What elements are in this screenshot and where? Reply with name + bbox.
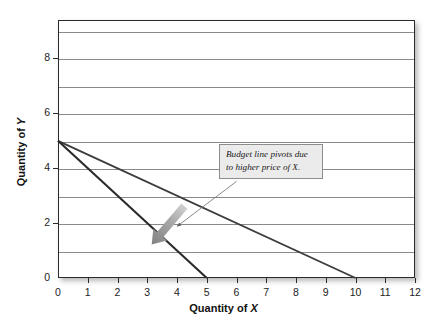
x-tick-label-5: 5 [195,286,219,298]
x-tick-label-9: 9 [314,286,338,298]
y-tick-mark-4 [53,168,58,169]
x-tick-label-3: 3 [135,286,159,298]
gridline-y-6 [59,114,414,115]
x-tick-mark-10 [356,278,357,283]
y-tick-label-8: 8 [22,51,50,63]
y-tick-mark-2 [53,223,58,224]
x-axis-title-variable: X [250,302,257,314]
x-tick-label-1: 1 [76,286,100,298]
gridline-y-2 [59,224,414,225]
x-tick-mark-6 [237,278,238,283]
gridline-y-8 [59,59,414,60]
x-tick-label-8: 8 [284,286,308,298]
x-tick-mark-4 [177,278,178,283]
x-tick-label-12: 12 [403,286,427,298]
y-axis-title-variable: Y [15,118,27,125]
x-tick-mark-11 [385,278,386,283]
gridline-y-9 [59,32,414,33]
x-tick-label-4: 4 [165,286,189,298]
x-tick-label-7: 7 [254,286,278,298]
x-tick-mark-1 [88,278,89,283]
callout-line-1: Budget line pivots due [226,148,317,161]
gridline-y-5 [59,142,414,143]
x-tick-mark-5 [207,278,208,283]
x-tick-mark-3 [147,278,148,283]
x-axis-title-prefix: Quantity of [189,302,250,314]
pivot-annotation-callout: Budget line pivots due to higher price o… [219,144,323,179]
y-axis-title: Quantity of Y [15,102,27,202]
x-axis-title: Quantity of X [0,302,447,314]
x-tick-label-10: 10 [344,286,368,298]
y-tick-label-2: 2 [22,216,50,228]
x-tick-mark-12 [415,278,416,283]
y-tick-mark-8 [53,58,58,59]
x-tick-label-6: 6 [225,286,249,298]
x-tick-label-2: 2 [106,286,130,298]
callout-line-2: to higher price of X. [226,161,317,174]
y-tick-label-0: 0 [22,271,50,283]
x-tick-mark-9 [326,278,327,283]
x-tick-label-0: 0 [46,286,70,298]
y-tick-mark-6 [53,113,58,114]
y-axis-title-prefix: Quantity of [15,125,27,186]
gridline-y-3 [59,197,414,198]
x-tick-mark-8 [296,278,297,283]
gridline-y-7 [59,87,414,88]
budget-line-pivot-chart: 02468 0123456789101112 Budget line pivot… [0,0,447,323]
x-tick-mark-7 [266,278,267,283]
gridline-y-1 [59,252,414,253]
x-tick-mark-2 [118,278,119,283]
x-tick-label-11: 11 [373,286,397,298]
